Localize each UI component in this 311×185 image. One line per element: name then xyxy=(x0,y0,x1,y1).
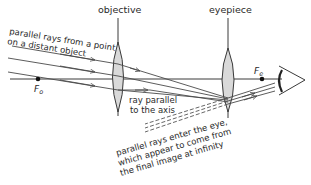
eye-icon xyxy=(279,66,305,95)
focus-eyepiece-label: Fe xyxy=(254,66,263,78)
axis-ray-label-1: ray parallel xyxy=(129,95,177,105)
axis-ray-label-2: to the axis xyxy=(130,105,175,115)
objective-label: objective xyxy=(98,4,142,15)
focal-point-objective xyxy=(36,77,41,82)
eyepiece-label: eyepiece xyxy=(209,4,252,15)
focus-objective-label: Fo xyxy=(34,84,43,96)
telescope-diagram: objective eyepiece parallel rays from a … xyxy=(0,0,311,185)
objective-lens xyxy=(113,18,124,116)
